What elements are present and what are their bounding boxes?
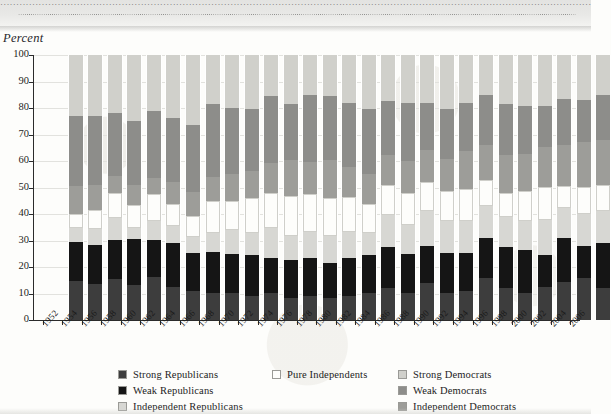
- stacked-bar[interactable]: [439, 55, 455, 320]
- stacked-bar[interactable]: [595, 55, 611, 320]
- stacked-bar[interactable]: [107, 55, 123, 320]
- legend-item[interactable]: Strong Republicans: [118, 366, 243, 382]
- bar-segment-independent-republicans: [69, 228, 83, 242]
- bar-segment-weak-republicans: [459, 253, 473, 290]
- legend-item[interactable]: Pure Independents: [272, 366, 367, 382]
- legend-item[interactable]: Strong Democrats: [398, 366, 516, 382]
- stacked-bar[interactable]: [537, 55, 553, 320]
- bar-segment-strong-democrats: [323, 55, 337, 96]
- bar-segment-independent-democrats: [108, 176, 122, 193]
- bar-segment-strong-democrats: [342, 55, 356, 103]
- bar-segment-pure-independents: [245, 198, 259, 233]
- legend-item-label: Weak Democrats: [413, 385, 487, 396]
- y-axis-line: [33, 55, 34, 321]
- bar-segment-pure-independents: [440, 191, 454, 220]
- y-axis-tick-label: 50: [0, 181, 29, 192]
- stacked-bar[interactable]: [224, 55, 240, 320]
- clipped-caption-text: ········································…: [0, 0, 591, 9]
- bar-segment-strong-democrats: [362, 55, 376, 109]
- stacked-bar[interactable]: [400, 55, 416, 320]
- stacked-bar[interactable]: [341, 55, 357, 320]
- stacked-bar[interactable]: [458, 55, 474, 320]
- stacked-bar[interactable]: [419, 55, 435, 320]
- stacked-bar[interactable]: [263, 55, 279, 320]
- bar-segment-weak-republicans: [323, 263, 337, 298]
- stacked-bar[interactable]: [498, 55, 514, 320]
- bar-segment-independent-republicans: [323, 236, 337, 263]
- stacked-bar[interactable]: [126, 55, 142, 320]
- y-axis-tick-mark: [29, 214, 33, 215]
- bar-segment-independent-republicans: [401, 225, 415, 254]
- bar-segment-pure-independents: [166, 204, 180, 226]
- bar-segment-strong-republicans: [596, 288, 610, 320]
- bar-segment-weak-republicans: [342, 258, 356, 295]
- bar-segment-strong-democrats: [499, 55, 513, 104]
- bar-segment-pure-independents: [459, 189, 473, 221]
- bar-segment-independent-democrats: [401, 161, 415, 193]
- stacked-bar[interactable]: [380, 55, 396, 320]
- bar-segment-strong-democrats: [225, 55, 239, 108]
- y-axis-tick-label: 90: [0, 75, 29, 86]
- bar-segment-weak-republicans: [186, 253, 200, 290]
- bar-segment-pure-independents: [499, 193, 513, 217]
- stacked-bar[interactable]: [244, 55, 260, 320]
- y-axis-tick-mark: [29, 82, 33, 83]
- page-bottom-edge: [0, 408, 591, 414]
- bar-segment-independent-democrats: [323, 160, 337, 198]
- bar-segment-strong-democrats: [284, 55, 298, 104]
- stacked-bar[interactable]: [185, 55, 201, 320]
- bar-segment-weak-republicans: [284, 260, 298, 298]
- stacked-bar[interactable]: [322, 55, 338, 320]
- bar-segment-weak-democrats: [420, 103, 434, 151]
- bar-segment-pure-independents: [264, 193, 278, 228]
- legend-swatch-icon: [398, 386, 407, 395]
- bar-segment-strong-democrats: [88, 55, 102, 116]
- bar-segment-pure-independents: [88, 210, 102, 229]
- bar-segment-independent-republicans: [186, 237, 200, 253]
- bar-segment-pure-independents: [518, 191, 532, 220]
- bar-segment-strong-democrats: [538, 55, 552, 106]
- bar-segment-strong-democrats: [245, 55, 259, 109]
- scan-shadow: [0, 26, 591, 32]
- y-axis-tick-label: 60: [0, 154, 29, 165]
- stacked-bar[interactable]: [517, 55, 533, 320]
- y-axis-title: Percent: [3, 31, 44, 46]
- legend-item[interactable]: Weak Democrats: [398, 382, 516, 398]
- bar-segment-weak-republicans: [147, 240, 161, 277]
- bar-segment-weak-republicans: [381, 247, 395, 288]
- bar-segment-weak-republicans: [499, 247, 513, 288]
- stacked-bar[interactable]: [361, 55, 377, 320]
- stacked-bar[interactable]: [283, 55, 299, 320]
- bar-segment-independent-republicans: [88, 229, 102, 246]
- bar-segment-weak-republicans: [245, 255, 259, 296]
- bar-segment-independent-republicans: [440, 221, 454, 253]
- bar-segment-weak-democrats: [284, 104, 298, 161]
- bar-segment-independent-democrats: [440, 159, 454, 191]
- stacked-bar[interactable]: [68, 55, 84, 320]
- stacked-bar[interactable]: [302, 55, 318, 320]
- bar-segment-independent-democrats: [166, 182, 180, 204]
- y-axis-tick-mark: [29, 320, 33, 321]
- bar-segment-weak-republicans: [206, 252, 220, 293]
- stacked-bar[interactable]: [556, 55, 572, 320]
- bar-segment-weak-republicans: [127, 239, 141, 285]
- stacked-bar[interactable]: [478, 55, 494, 320]
- bar-segment-weak-republicans: [362, 255, 376, 293]
- bar-segment-pure-independents: [303, 194, 317, 231]
- stacked-bar[interactable]: [165, 55, 181, 320]
- bar-segment-weak-democrats: [577, 100, 591, 142]
- stacked-bar[interactable]: [146, 55, 162, 320]
- stacked-bar[interactable]: [576, 55, 592, 320]
- bar-segment-pure-independents: [420, 182, 434, 211]
- legend-item[interactable]: Weak Republicans: [118, 382, 243, 398]
- bar-segment-pure-independents: [225, 201, 239, 230]
- bar-segment-independent-republicans: [303, 232, 317, 259]
- bar-segment-weak-democrats: [108, 113, 122, 176]
- bar-segment-independent-republicans: [577, 214, 591, 246]
- bar-segment-independent-republicans: [342, 232, 356, 259]
- bar-segment-weak-republicans: [264, 258, 278, 293]
- y-axis-tick-mark: [29, 161, 33, 162]
- bar-segment-strong-democrats: [69, 55, 83, 116]
- stacked-bar[interactable]: [87, 55, 103, 320]
- stacked-bar[interactable]: [205, 55, 221, 320]
